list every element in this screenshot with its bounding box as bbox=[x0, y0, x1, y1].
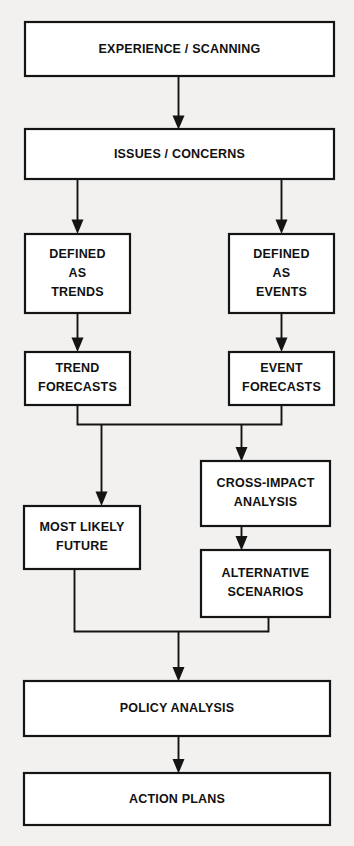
node-action-label: ACTION PLANS bbox=[129, 792, 225, 806]
node-eventforecasts-box[interactable] bbox=[229, 352, 334, 405]
edge-issues-to-events bbox=[276, 179, 288, 234]
node-alternative-label-line2: SCENARIOS bbox=[227, 585, 303, 599]
edge-trends-to-trendforecasts bbox=[72, 313, 84, 352]
node-cross-impact-analysis[interactable]: CROSS-IMPACT ANALYSIS bbox=[201, 461, 330, 526]
node-policy-label: POLICY ANALYSIS bbox=[120, 701, 234, 715]
edge-events-to-eventforecasts bbox=[276, 313, 288, 352]
node-event-forecasts[interactable]: EVENT FORECASTS bbox=[229, 352, 334, 405]
node-issues-label: ISSUES / CONCERNS bbox=[114, 147, 245, 161]
node-defined-as-trends[interactable]: DEFINED AS TRENDS bbox=[25, 234, 130, 313]
node-crossimpact-label-line1: CROSS-IMPACT bbox=[217, 476, 315, 490]
node-policy-analysis[interactable]: POLICY ANALYSIS bbox=[24, 681, 330, 736]
node-alternative-box[interactable] bbox=[201, 550, 330, 617]
node-events-label-line2: AS bbox=[273, 266, 291, 280]
node-experience-label: EXPERIENCE / SCANNING bbox=[99, 42, 261, 56]
node-defined-as-events[interactable]: DEFINED AS EVENTS bbox=[229, 234, 334, 313]
node-mostlikely-label-line2: FUTURE bbox=[56, 539, 108, 553]
node-issues-concerns[interactable]: ISSUES / CONCERNS bbox=[25, 129, 334, 179]
edge-bus-to-mostlikely bbox=[96, 425, 108, 507]
node-crossimpact-box[interactable] bbox=[201, 461, 330, 526]
node-eventforecasts-label-line1: EVENT bbox=[260, 361, 303, 375]
node-crossimpact-label-line2: ANALYSIS bbox=[234, 495, 298, 509]
edge-issues-to-trends bbox=[72, 179, 84, 234]
edge-forecast-merge-bus bbox=[78, 405, 282, 425]
node-mostlikely-label-line1: MOST LIKELY bbox=[39, 520, 125, 534]
node-trend-forecasts[interactable]: TREND FORECASTS bbox=[25, 352, 130, 405]
node-alternative-label-line1: ALTERNATIVE bbox=[222, 566, 310, 580]
node-trends-label-line2: AS bbox=[69, 266, 87, 280]
flowchart-canvas: EXPERIENCE / SCANNING ISSUES / CONCERNS … bbox=[0, 0, 354, 846]
node-trends-label-line1: DEFINED bbox=[49, 247, 105, 261]
node-eventforecasts-label-line2: FORECASTS bbox=[242, 380, 321, 394]
node-trendforecasts-box[interactable] bbox=[25, 352, 130, 405]
node-trendforecasts-label-line1: TREND bbox=[55, 361, 99, 375]
node-events-label-line1: DEFINED bbox=[253, 247, 309, 261]
node-events-label-line3: EVENTS bbox=[256, 285, 307, 299]
node-mostlikely-box[interactable] bbox=[24, 506, 140, 569]
edge-experience-to-issues bbox=[173, 76, 185, 130]
node-experience-scanning[interactable]: EXPERIENCE / SCANNING bbox=[25, 22, 334, 76]
node-trends-label-line3: TRENDS bbox=[51, 285, 104, 299]
edge-policy-to-action bbox=[173, 736, 185, 774]
edge-bus-to-crossimpact bbox=[236, 425, 248, 462]
edge-crossimpact-to-alternative bbox=[236, 526, 248, 551]
edge-bus-to-policy bbox=[173, 632, 185, 682]
node-action-plans[interactable]: ACTION PLANS bbox=[24, 773, 330, 825]
node-trendforecasts-label-line2: FORECASTS bbox=[38, 380, 117, 394]
flowchart-diagram: EXPERIENCE / SCANNING ISSUES / CONCERNS … bbox=[0, 0, 354, 846]
node-most-likely-future[interactable]: MOST LIKELY FUTURE bbox=[24, 506, 140, 569]
node-alternative-scenarios[interactable]: ALTERNATIVE SCENARIOS bbox=[201, 550, 330, 617]
